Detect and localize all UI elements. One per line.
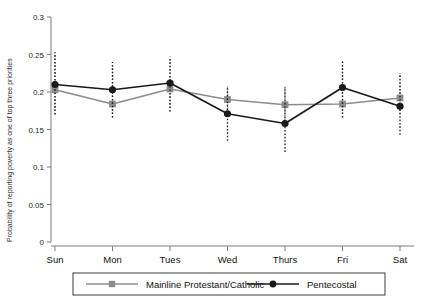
x-axis: SunMonTuesWedThursFriSat: [47, 246, 414, 265]
chart-container: 00.050.10.150.20.250.3 SunMonTuesWedThur…: [0, 0, 421, 303]
data-point-marker: [166, 79, 173, 86]
legend-swatch-marker: [109, 281, 115, 287]
legend-swatch-marker: [270, 281, 277, 288]
x-tick-label-fri: Fri: [337, 254, 348, 265]
data-point-marker: [224, 110, 231, 117]
chart-legend: Mainline Protestant/CatholicPentecostal: [73, 273, 385, 295]
data-series-group: [51, 52, 403, 152]
data-point-marker: [51, 81, 58, 88]
y-tick-label: 0: [40, 238, 45, 247]
x-tick-label-sun: Sun: [47, 254, 64, 265]
data-point-marker: [339, 84, 346, 91]
legend-label: Mainline Protestant/Catholic: [146, 279, 265, 290]
x-tick-label-tues: Tues: [160, 254, 181, 265]
x-tick-label-wed: Wed: [218, 254, 237, 265]
y-tick-label: 0.25: [28, 51, 44, 60]
y-axis-title: Probability of reporting poverty as one …: [6, 58, 14, 242]
y-tick-label: 0.2: [33, 88, 45, 97]
x-tick-label-thurs: Thurs: [273, 254, 298, 265]
y-tick-label: 0.1: [33, 163, 45, 172]
data-point-marker: [281, 120, 288, 127]
y-tick-label: 0.15: [28, 126, 44, 135]
legend-label: Pentecostal: [307, 279, 357, 290]
y-tick-label: 0.05: [28, 201, 44, 210]
x-tick-label-mon: Mon: [103, 254, 121, 265]
data-point-marker: [396, 103, 403, 110]
data-point-marker: [109, 86, 116, 93]
y-axis: 00.050.10.150.20.250.3: [28, 13, 51, 247]
line-chart: 00.050.10.150.20.250.3 SunMonTuesWedThur…: [0, 0, 421, 303]
legend-item-mainline-protestant-catholic: Mainline Protestant/Catholic: [86, 279, 265, 290]
x-tick-label-sat: Sat: [393, 254, 408, 265]
y-tick-label: 0.3: [33, 13, 45, 22]
